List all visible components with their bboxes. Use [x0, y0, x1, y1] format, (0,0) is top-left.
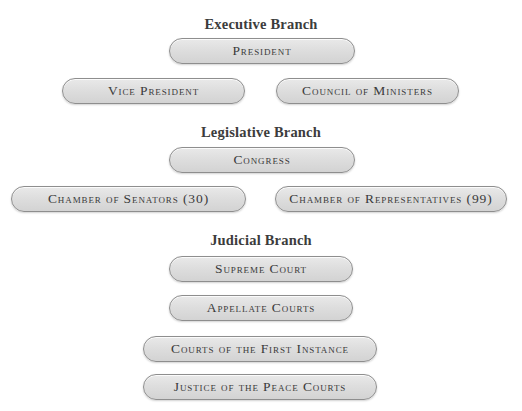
chamber-of-representatives-node: Chamber of Representatives (99) — [275, 186, 507, 212]
justice-of-the-peace-courts-node: Justice of the Peace Courts — [143, 374, 377, 400]
council-of-ministers-node: Council of Ministers — [276, 78, 459, 104]
chamber-of-senators-node: Chamber of Senators (30) — [11, 186, 246, 212]
congress-node: Congress — [169, 147, 355, 173]
supreme-court-node: Supreme Court — [169, 256, 353, 282]
courts-of-first-instance-node: Courts of the First Instance — [143, 336, 377, 362]
president-node: President — [169, 38, 355, 64]
vice-president-node: Vice President — [62, 78, 245, 104]
judicial-branch-heading: Judicial Branch — [0, 232, 522, 249]
appellate-courts-node: Appellate Courts — [169, 295, 353, 321]
legislative-branch-heading: Legislative Branch — [0, 124, 522, 141]
executive-branch-heading: Executive Branch — [0, 16, 522, 33]
